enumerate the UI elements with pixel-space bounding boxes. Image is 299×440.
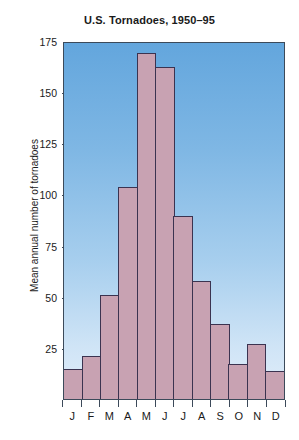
x-tick-cell-april	[119, 400, 138, 407]
x-tick-cell-october	[230, 400, 249, 407]
x-tick-label-december: D	[267, 410, 286, 422]
x-tick-label-november: N	[248, 410, 267, 422]
bar-series	[64, 43, 284, 399]
bar-july	[173, 216, 193, 399]
x-tick-mark	[247, 400, 248, 407]
x-tick-cell-july	[174, 400, 193, 407]
x-tick-label-october: O	[230, 410, 249, 422]
x-tick-label-february: F	[82, 410, 101, 422]
x-tick-mark	[210, 400, 211, 407]
x-tick-cell-february	[82, 400, 101, 407]
y-tick-label-175: 175	[5, 36, 57, 48]
x-tick-mark	[81, 400, 82, 407]
x-tick-label-april: A	[119, 410, 138, 422]
bar-april	[118, 187, 138, 399]
x-tick-cell-august	[193, 400, 212, 407]
chart-title: U.S. Tornadoes, 1950–95	[0, 14, 299, 26]
x-tick-cell-march	[100, 400, 119, 407]
x-tick-mark	[136, 400, 137, 407]
bar-december	[265, 371, 285, 399]
x-tick-mark-end	[285, 400, 286, 407]
x-tick-label-august: A	[193, 410, 212, 422]
x-axis-labels: JFMAMJJASOND	[63, 410, 285, 422]
x-tick-label-may: M	[137, 410, 156, 422]
y-tick-label-150: 150	[5, 87, 57, 99]
x-axis-ticks	[63, 400, 285, 407]
x-tick-mark	[229, 400, 230, 407]
x-tick-label-july: J	[174, 410, 193, 422]
bar-november	[247, 344, 267, 399]
x-tick-mark	[118, 400, 119, 407]
x-tick-mark	[173, 400, 174, 407]
x-tick-cell-may	[137, 400, 156, 407]
plot-area	[63, 42, 285, 400]
chart-figure: U.S. Tornadoes, 1950–95 Mean annual numb…	[0, 0, 299, 440]
x-tick-mark	[192, 400, 193, 407]
x-tick-mark	[99, 400, 100, 407]
y-tick-label-25: 25	[5, 343, 57, 355]
y-tick-label-100: 100	[5, 189, 57, 201]
x-tick-cell-december	[267, 400, 286, 407]
y-tick-label-50: 50	[5, 292, 57, 304]
x-tick-label-january: J	[63, 410, 82, 422]
y-tick-label-75: 75	[5, 241, 57, 253]
x-tick-label-june: J	[156, 410, 175, 422]
x-tick-cell-june	[156, 400, 175, 407]
y-tick-label-125: 125	[5, 138, 57, 150]
x-tick-cell-november	[248, 400, 267, 407]
bar-january	[63, 369, 83, 400]
bar-may	[137, 53, 157, 399]
x-tick-label-march: M	[100, 410, 119, 422]
x-tick-mark	[266, 400, 267, 407]
x-tick-label-september: S	[211, 410, 230, 422]
bar-october	[228, 364, 248, 399]
x-tick-cell-september	[211, 400, 230, 407]
x-tick-mark	[62, 400, 63, 407]
bar-march	[100, 295, 120, 399]
x-tick-mark	[155, 400, 156, 407]
bar-february	[82, 356, 102, 399]
x-tick-cell-january	[63, 400, 82, 407]
bar-june	[155, 67, 175, 399]
bar-september	[210, 324, 230, 399]
bar-august	[192, 281, 212, 399]
